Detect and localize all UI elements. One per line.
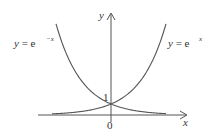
y-intercept-label: 1 <box>103 91 109 103</box>
curve-exp-x <box>52 24 166 114</box>
y-axis-label: y <box>98 9 104 21</box>
label-exp-neg-x: y = e <box>13 37 36 49</box>
exponential-graph: y x 0 1 y = e −x y = e x <box>0 0 207 139</box>
origin-label: 0 <box>107 119 113 131</box>
x-axis-label: x <box>182 116 188 128</box>
label-exp-neg-x-exponent: −x <box>46 35 55 43</box>
label-exp-x-exponent: x <box>198 35 203 43</box>
label-exp-x: y = e <box>167 37 190 49</box>
